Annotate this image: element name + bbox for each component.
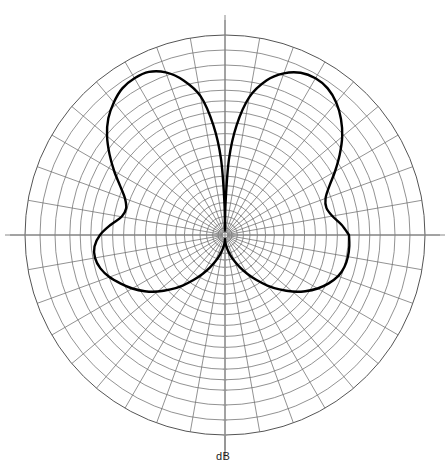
grid-spoke xyxy=(125,62,224,233)
grid-spoke xyxy=(226,237,325,408)
grid-spoke xyxy=(157,237,225,423)
grid-spoke xyxy=(190,237,224,432)
grid-spoke xyxy=(225,237,259,432)
grid-spoke xyxy=(125,237,224,408)
grid-spoke xyxy=(226,62,325,233)
polar-plot-figure: dB xyxy=(0,0,446,475)
grid-spoke xyxy=(37,167,223,235)
radial-axis-label: dB xyxy=(0,450,446,462)
grid-spoke xyxy=(227,235,422,269)
grid-spoke xyxy=(227,236,398,335)
grid-spoke xyxy=(226,47,294,233)
grid-spoke xyxy=(157,47,225,233)
polar-chart-canvas xyxy=(0,0,446,475)
grid-spoke xyxy=(227,236,413,304)
grid-spoke xyxy=(37,236,223,304)
grid-spoke xyxy=(227,135,398,234)
cross-axes-group xyxy=(5,15,445,459)
grid-spoke xyxy=(227,167,413,235)
grid-spoke xyxy=(52,236,223,335)
grid-spoke xyxy=(190,38,224,233)
grid-spoke xyxy=(226,237,294,423)
grid-spoke xyxy=(225,38,259,233)
grid-spoke xyxy=(28,235,223,269)
grid-spoke xyxy=(52,135,223,234)
